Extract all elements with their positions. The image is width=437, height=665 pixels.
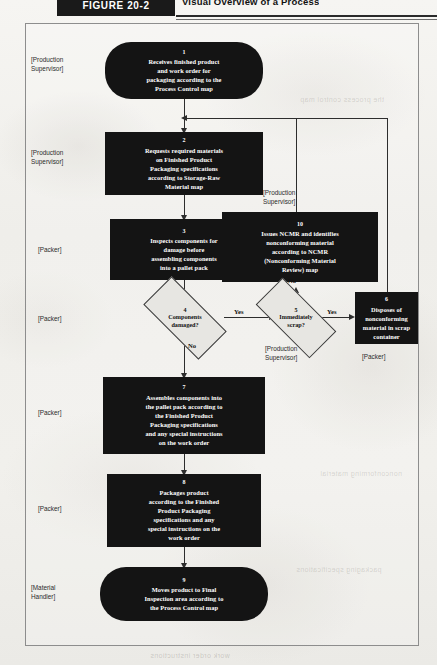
feedback-arrowhead	[181, 115, 187, 121]
node-1[interactable]: 1 Receives finished product and work ord…	[105, 42, 263, 99]
node-5-text: Immediately scrap?	[279, 313, 312, 329]
node-8-number: 8	[182, 478, 185, 487]
node-6[interactable]: 6 Disposes of nonconforming material in …	[355, 292, 418, 344]
edge-label-4-no: No	[188, 342, 196, 349]
role-label-node-3: [Packer]	[38, 245, 61, 254]
header-rule-thin	[176, 19, 437, 20]
node-7[interactable]: 7 Assembles components into the pallet p…	[103, 377, 265, 454]
role-label-node-5: [Production Supervisor]	[265, 344, 297, 363]
edge-label-5-no: No	[288, 277, 296, 284]
edge-10-to-2-vertical	[296, 118, 297, 213]
node-4-decision[interactable]: 4 Components damaged?	[146, 298, 224, 338]
node-10-text: Issues NCMR and identifies nonconforming…	[261, 229, 338, 274]
node-5-decision[interactable]: 5 Immediately scrap?	[258, 299, 334, 337]
node-9[interactable]: 9 Moves product to Final Inspection area…	[100, 567, 268, 621]
role-label-node-6: [Packer]	[362, 352, 385, 361]
node-6-number: 6	[385, 295, 388, 304]
edge-6-to-2-vertical	[387, 118, 388, 294]
role-label-node-9: [Material Handler]	[31, 583, 56, 602]
node-4-text: Components damaged?	[168, 313, 201, 329]
node-2-number: 2	[182, 136, 185, 145]
node-10-number: 10	[297, 220, 303, 229]
header-rule	[176, 15, 437, 17]
node-8[interactable]: 8 Packages product according to the Fini…	[107, 474, 261, 547]
node-7-number: 7	[182, 383, 185, 392]
edge-10-to-2-horizontal	[186, 118, 297, 119]
figure-page: the process control map nonconforming ma…	[0, 0, 437, 665]
edge-label-5-yes: Yes	[327, 308, 337, 315]
node-1-number: 1	[182, 48, 185, 57]
role-label-node-2: [Production Supervisor]	[31, 148, 63, 167]
bleedthrough-text: work order instructions	[150, 652, 230, 659]
role-label-node-10: [Production Supervisor]	[263, 188, 295, 207]
node-2[interactable]: 2 Requests required materials on Finishe…	[105, 132, 263, 195]
edge-label-4-yes: Yes	[234, 308, 244, 315]
node-9-number: 9	[182, 576, 185, 585]
node-1-text: Receives finished product and work order…	[147, 57, 222, 93]
node-6-text: Disposes of nonconforming material in sc…	[363, 305, 410, 341]
node-8-text: Packages product according to the Finish…	[148, 488, 220, 543]
node-3-number: 3	[182, 227, 185, 236]
node-2-text: Requests required materials on Finished …	[145, 146, 223, 191]
role-label-node-4: [Packer]	[38, 314, 61, 323]
node-3-text: Inspects components for damage before as…	[150, 236, 218, 272]
edge-6-to-2-horizontal	[296, 118, 388, 119]
node-9-text: Moves product to Final Inspection area a…	[145, 585, 224, 612]
role-label-node-1: [Production Supervisor]	[31, 55, 63, 74]
figure-title: Visual Overview of a Process	[182, 0, 319, 14]
figure-tag: FIGURE 20-2	[57, 0, 175, 16]
node-10[interactable]: 10 Issues NCMR and identifies nonconform…	[222, 212, 378, 282]
role-label-node-8: [Packer]	[38, 504, 61, 513]
node-7-text: Assembles components into the pallet pac…	[145, 393, 222, 448]
role-label-node-7: [Packer]	[38, 408, 61, 417]
